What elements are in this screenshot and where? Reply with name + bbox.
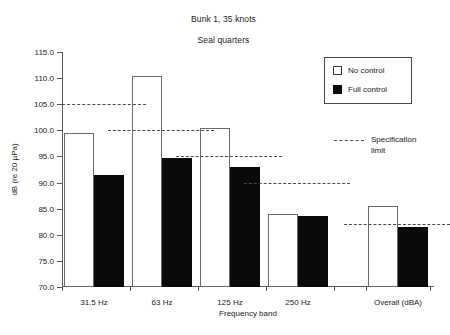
x-axis-tick-label: Overall (dBA) <box>374 298 422 307</box>
y-axis-tick-label: 75.0 <box>38 256 54 265</box>
legend-item-full-control: Full control <box>333 85 387 94</box>
y-axis-tick-label: 95.0 <box>38 152 54 161</box>
chart-title: Bunk 1, 35 knots <box>0 14 447 24</box>
x-axis-tick <box>366 287 367 291</box>
chart-subtitle: Seal quarters <box>0 35 447 45</box>
legend-item-no-control: No control <box>333 66 384 75</box>
x-axis-tick <box>198 287 199 291</box>
y-axis-tick-label: 100.0 <box>34 126 54 135</box>
y-axis-tick <box>57 235 62 236</box>
specification-limit-segment <box>344 224 450 225</box>
specification-limit-segment <box>176 156 282 157</box>
x-axis-tick <box>266 287 267 291</box>
specification-limit-segment <box>244 183 350 184</box>
bar-no-control <box>64 133 94 287</box>
y-axis-tick-label: 70.0 <box>38 283 54 292</box>
bar-full-control <box>298 216 328 287</box>
x-axis-tick-label: 63 Hz <box>152 298 173 307</box>
x-axis-title: Frequency band <box>62 309 434 318</box>
bar-full-control <box>162 158 192 288</box>
filled-square-icon <box>333 85 342 94</box>
x-axis-tick <box>334 287 335 291</box>
y-axis-tick <box>57 78 62 79</box>
legend-item-label: No control <box>348 66 384 75</box>
y-axis-tick-label: 80.0 <box>38 230 54 239</box>
x-axis-tick <box>130 287 131 291</box>
y-axis-tick <box>57 130 62 131</box>
bar-full-control <box>398 227 428 287</box>
x-axis-tick-label: 31.5 Hz <box>80 298 108 307</box>
y-axis-tick <box>57 209 62 210</box>
y-axis-tick <box>57 183 62 184</box>
dashed-line-icon <box>334 140 364 141</box>
y-axis-tick <box>57 156 62 157</box>
x-axis-tick-label: 125 Hz <box>217 298 242 307</box>
y-axis-title-text: dB (re 20 µPa) <box>10 143 19 195</box>
bar-full-control <box>94 175 124 287</box>
specification-limit-segment <box>62 104 146 105</box>
y-axis-tick-label: 115.0 <box>35 48 54 57</box>
y-axis-tick <box>57 52 62 53</box>
y-axis-tick <box>57 261 62 262</box>
bar-no-control <box>268 214 298 287</box>
y-axis-tick-label: 85.0 <box>38 204 54 213</box>
y-axis-tick-label: 105.0 <box>34 100 54 109</box>
y-axis-title: dB (re 20 µPa) <box>7 52 21 287</box>
x-axis-tick <box>430 287 431 291</box>
legend: No control Full control <box>324 57 412 104</box>
bar-no-control <box>368 206 398 287</box>
bar-no-control <box>200 128 230 287</box>
legend-item-label: Full control <box>348 85 387 94</box>
x-axis-tick <box>62 287 63 291</box>
x-axis-tick-label: 250 Hz <box>285 298 310 307</box>
open-square-icon <box>333 66 342 75</box>
y-axis-line <box>62 52 63 287</box>
specification-limit-label: Specification limit <box>371 134 416 156</box>
specification-limit-segment <box>108 130 214 131</box>
bar-full-control <box>230 167 260 287</box>
specification-limit-legend: Specification limit <box>334 134 416 156</box>
bar-no-control <box>132 76 162 288</box>
y-axis-tick-label: 110.0 <box>35 74 54 83</box>
y-axis-tick-label: 90.0 <box>38 178 54 187</box>
